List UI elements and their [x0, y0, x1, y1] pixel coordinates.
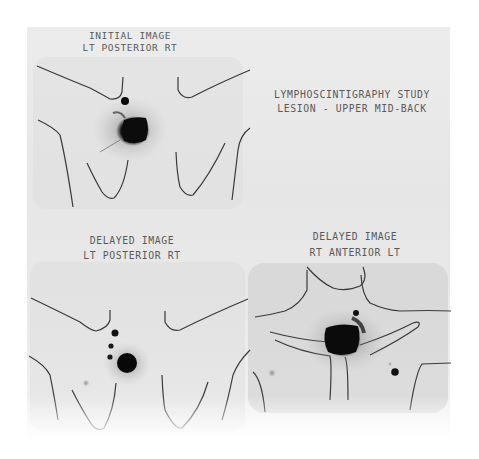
study-title-line1: LYMPHOSCINTIGRAPHY STUDY: [252, 88, 452, 102]
film-fade: [27, 395, 450, 440]
delayed-anterior-label: DELAYED IMAGE RT ANTERIOR LT: [295, 229, 415, 261]
study-title: LYMPHOSCINTIGRAPHY STUDY LESION - UPPER …: [252, 88, 452, 116]
study-title-line2: LESION - UPPER MID-BACK: [252, 102, 452, 116]
initial-image-label: INITIAL IMAGE LT POSTERIOR RT: [75, 30, 185, 54]
panel-label-line1: DELAYED IMAGE: [72, 233, 192, 248]
panel-label-line2: RT ANTERIOR LT: [295, 245, 415, 261]
panel-label-line2: LT POSTERIOR RT: [75, 42, 185, 54]
panel-label-line1: DELAYED IMAGE: [295, 229, 415, 245]
panel-label-line2: LT POSTERIOR RT: [72, 248, 192, 263]
delayed-posterior-label: DELAYED IMAGE LT POSTERIOR RT: [72, 233, 192, 263]
panel-label-line1: INITIAL IMAGE: [75, 30, 185, 42]
